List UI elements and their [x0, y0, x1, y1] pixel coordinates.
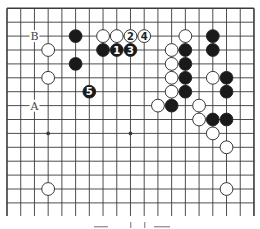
black-stone	[220, 85, 233, 98]
black-stone	[165, 99, 178, 112]
star-point	[46, 132, 50, 136]
white-stone-move-2: 2	[124, 30, 137, 43]
white-stone	[42, 71, 55, 84]
black-stone	[220, 71, 233, 84]
star-point	[129, 132, 133, 136]
white-stone	[97, 30, 110, 43]
marker-b: B	[30, 30, 38, 43]
black-stone-move-5: 5	[83, 85, 96, 98]
white-stone	[165, 58, 178, 71]
black-stone	[220, 113, 233, 126]
black-stone	[179, 44, 192, 57]
white-stone	[110, 30, 123, 43]
black-stone-move-3: 3	[124, 44, 137, 57]
black-stone	[179, 71, 192, 84]
move-number: 1	[113, 45, 120, 56]
move-number: 4	[141, 31, 148, 42]
black-stone	[206, 30, 219, 43]
white-stone	[193, 99, 206, 112]
move-number: 5	[86, 86, 93, 97]
white-stone	[42, 183, 55, 196]
white-stone	[152, 99, 165, 112]
black-stone	[69, 58, 82, 71]
white-stone	[193, 113, 206, 126]
stones: 24135	[42, 30, 233, 196]
white-stone	[206, 71, 219, 84]
black-stone	[69, 30, 82, 43]
black-stone	[97, 44, 110, 57]
white-stone	[165, 85, 178, 98]
black-stone	[206, 44, 219, 57]
black-stone-move-1: 1	[110, 44, 123, 57]
white-stone	[220, 141, 233, 154]
white-stone	[206, 127, 219, 140]
white-stone	[179, 30, 192, 43]
white-stone	[165, 71, 178, 84]
marker-a: A	[29, 100, 39, 113]
white-stone	[220, 183, 233, 196]
black-stone	[179, 85, 192, 98]
move-number: 3	[127, 45, 134, 56]
white-stone	[42, 44, 55, 57]
go-board: BA 24135	[0, 0, 260, 229]
white-stone	[165, 44, 178, 57]
caption-cut-off	[90, 222, 180, 229]
black-stone	[179, 58, 192, 71]
white-stone-move-4: 4	[138, 30, 151, 43]
move-number: 2	[127, 31, 134, 42]
black-stone	[206, 113, 219, 126]
